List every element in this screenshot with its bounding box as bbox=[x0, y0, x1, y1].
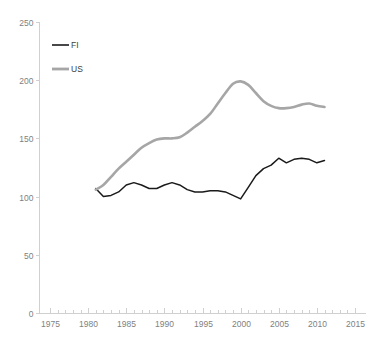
y-tick-label-200: 200 bbox=[19, 76, 33, 86]
x-tick-label-2015: 2015 bbox=[346, 319, 365, 329]
x-axis-tick-labels: 197519801985199019952000200520102015 bbox=[41, 319, 365, 329]
x-tick-label-2005: 2005 bbox=[270, 319, 289, 329]
chart-canvas: 050100150200250 197519801985199019952000… bbox=[0, 0, 381, 347]
line-chart: 050100150200250 197519801985199019952000… bbox=[0, 0, 381, 347]
y-tick-label-0: 0 bbox=[29, 309, 34, 319]
legend-label-fi: FI bbox=[71, 40, 79, 50]
y-tick-label-250: 250 bbox=[19, 18, 33, 28]
y-tick-label-150: 150 bbox=[19, 134, 33, 144]
data-series-group bbox=[96, 81, 325, 199]
y-tick-label-50: 50 bbox=[24, 251, 34, 261]
x-tick-label-1985: 1985 bbox=[117, 319, 136, 329]
series-line-us bbox=[96, 81, 325, 189]
x-tick-label-1980: 1980 bbox=[79, 319, 98, 329]
y-axis-ticks bbox=[36, 23, 40, 314]
y-tick-label-100: 100 bbox=[19, 193, 33, 203]
x-tick-label-1990: 1990 bbox=[155, 319, 174, 329]
y-axis-tick-labels: 050100150200250 bbox=[19, 18, 33, 319]
series-line-fi bbox=[96, 158, 325, 199]
x-tick-label-2010: 2010 bbox=[308, 319, 327, 329]
x-tick-label-1975: 1975 bbox=[41, 319, 60, 329]
legend-label-us: US bbox=[71, 64, 83, 74]
x-tick-label-1995: 1995 bbox=[194, 319, 213, 329]
chart-legend: FIUS bbox=[52, 40, 83, 74]
x-tick-label-2000: 2000 bbox=[232, 319, 251, 329]
